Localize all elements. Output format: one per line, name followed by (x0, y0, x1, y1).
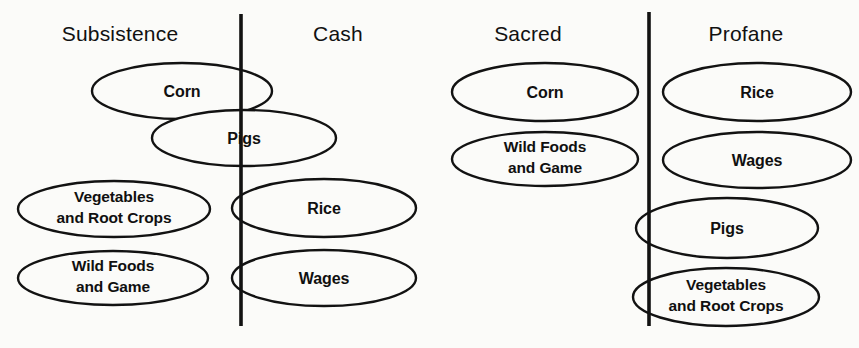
panel-right: SacredProfaneCornWild Foodsand GameRiceW… (452, 12, 851, 326)
node-right-vegetables[interactable]: Vegetablesand Root Crops (633, 268, 819, 326)
node-label-wildfoods-line1: and Game (508, 159, 583, 176)
node-left-pigs[interactable]: Pigs (152, 110, 336, 166)
node-right-wages[interactable]: Wages (663, 132, 851, 188)
venn-style-classification-diagram: SubsistenceCashCornPigsVegetablesand Roo… (0, 0, 859, 348)
node-label-wages-line0: Wages (299, 270, 350, 287)
node-label-vegetables-line1: and Root Crops (57, 209, 172, 226)
node-label-wildfoods-line0: Wild Foods (504, 138, 586, 155)
diagram-canvas: SubsistenceCashCornPigsVegetablesand Roo… (0, 0, 859, 348)
node-label-rice-line0: Rice (307, 200, 341, 217)
node-label-vegetables-line1: and Root Crops (669, 297, 784, 314)
panel-header-left-right: Cash (313, 22, 363, 45)
panel-header-right-right: Profane (709, 22, 784, 45)
node-right-corn[interactable]: Corn (452, 63, 638, 121)
node-right-wildfoods[interactable]: Wild Foodsand Game (452, 132, 638, 186)
panel-header-right-left: Sacred (494, 22, 562, 45)
node-label-wildfoods-line0: Wild Foods (72, 257, 154, 274)
node-label-vegetables-line0: Vegetables (686, 276, 766, 293)
panel-left: SubsistenceCashCornPigsVegetablesand Roo… (18, 14, 416, 326)
node-left-rice[interactable]: Rice (232, 179, 416, 237)
node-label-corn-line0: Corn (527, 84, 564, 101)
node-label-pigs-line0: Pigs (710, 220, 744, 237)
node-left-wages[interactable]: Wages (232, 250, 416, 306)
node-right-rice[interactable]: Rice (663, 63, 851, 121)
node-left-wildfoods[interactable]: Wild Foodsand Game (18, 251, 208, 305)
node-left-vegetables[interactable]: Vegetablesand Root Crops (18, 181, 210, 237)
panel-header-left-left: Subsistence (62, 22, 179, 45)
node-label-pigs-line0: Pigs (227, 130, 261, 147)
node-label-rice-line0: Rice (740, 84, 774, 101)
node-right-pigs[interactable]: Pigs (636, 198, 818, 258)
node-label-wildfoods-line1: and Game (76, 278, 151, 295)
node-label-wages-line0: Wages (732, 152, 783, 169)
node-label-vegetables-line0: Vegetables (74, 188, 154, 205)
node-label-corn-line0: Corn (164, 83, 201, 100)
